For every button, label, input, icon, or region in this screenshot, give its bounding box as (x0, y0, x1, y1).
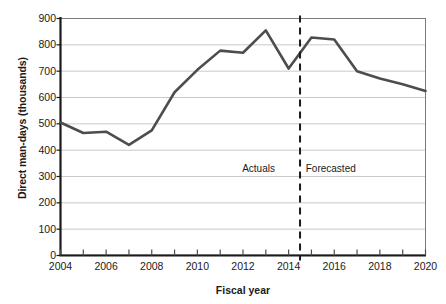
annotation-actuals: Actuals (0, 163, 275, 174)
x-tick-label: 2018 (360, 261, 400, 272)
annotation-forecasted: Forecasted (306, 163, 356, 174)
x-tick-label: 2020 (406, 261, 446, 272)
y-tick-label: 900 (20, 13, 56, 24)
x-tick-label: 2012 (223, 261, 263, 272)
x-tick-label: 2014 (269, 261, 309, 272)
y-tick-label: 700 (20, 66, 56, 77)
chart-figure: Direct man-days (thousands) 900800700600… (0, 0, 446, 304)
y-tick-label: 600 (20, 92, 56, 103)
x-tick-label: 2016 (314, 261, 354, 272)
y-tick-label: 800 (20, 39, 56, 50)
x-tick-label: 2008 (132, 261, 172, 272)
data-series-line (61, 30, 426, 145)
y-tick-label: 0 (20, 250, 56, 261)
x-tick-label: 2006 (86, 261, 126, 272)
y-tick-label: 100 (20, 224, 56, 235)
chart-plot-area (0, 0, 446, 304)
x-axis-title: Fiscal year (60, 284, 426, 296)
y-axis-tick-labels: 9008007006005004003002001000 (16, 0, 56, 304)
x-tick-label: 2010 (177, 261, 217, 272)
x-tick-label: 2004 (41, 261, 81, 272)
y-tick-label: 200 (20, 197, 56, 208)
y-tick-label: 500 (20, 118, 56, 129)
y-tick-label: 400 (20, 145, 56, 156)
